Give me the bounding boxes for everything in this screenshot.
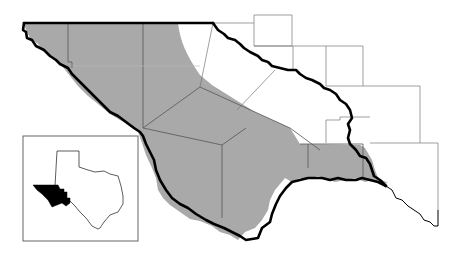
map-canvas: [0, 0, 461, 254]
county-row2-c: [326, 46, 363, 86]
county-line-ne: [237, 70, 275, 110]
county-top-1: [254, 15, 292, 46]
county-row3: [326, 86, 420, 143]
rio-grande-lower: [386, 186, 438, 226]
county-line-c2: [200, 23, 213, 87]
inset-locator-map: [23, 136, 138, 241]
county-se: [370, 143, 438, 210]
